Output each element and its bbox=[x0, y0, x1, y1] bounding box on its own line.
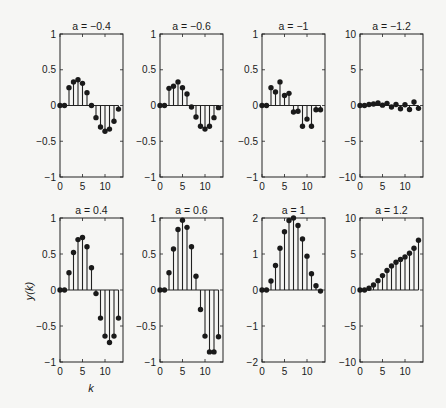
stem-marker bbox=[189, 244, 194, 249]
y-tick-label: −0.5 bbox=[136, 321, 156, 332]
stem-marker bbox=[116, 315, 121, 320]
x-tick-label: 0 bbox=[157, 181, 163, 192]
y-tick-label: −10 bbox=[339, 357, 356, 368]
x-tick-label: 10 bbox=[399, 366, 411, 377]
x-tick-label: 5 bbox=[282, 181, 288, 192]
y-tick-label: −1 bbox=[145, 172, 157, 183]
stem-marker bbox=[207, 124, 212, 129]
stem-marker bbox=[93, 291, 98, 296]
y-tick-label: 0 bbox=[252, 100, 258, 111]
stem-marker bbox=[62, 287, 67, 292]
x-tick-label: 5 bbox=[80, 181, 86, 192]
stem-marker bbox=[111, 333, 116, 338]
stem-marker bbox=[216, 105, 221, 110]
stem-marker bbox=[111, 119, 116, 124]
stem-marker bbox=[286, 91, 291, 96]
stem-panel: a = 1−2−10120510 bbox=[247, 204, 325, 377]
y-tick-label: 1 bbox=[50, 29, 56, 40]
stem-marker bbox=[189, 104, 194, 109]
stem-marker bbox=[273, 89, 278, 94]
stem-marker bbox=[300, 236, 305, 241]
stem-marker bbox=[202, 333, 207, 338]
stem-marker bbox=[180, 85, 185, 90]
stem-marker bbox=[162, 287, 167, 292]
stem-marker bbox=[66, 85, 71, 90]
stem-marker bbox=[384, 268, 389, 273]
stem-panel: a = 0.4−1−0.500.510510 bbox=[36, 204, 123, 377]
y-tick-label: −1 bbox=[247, 172, 259, 183]
y-tick-label: −1 bbox=[247, 321, 259, 332]
stem-marker bbox=[407, 251, 412, 256]
y-tick-label: 0 bbox=[50, 100, 56, 111]
stem-marker bbox=[389, 263, 394, 268]
stem-marker bbox=[80, 235, 85, 240]
y-tick-label: 2 bbox=[252, 213, 258, 224]
stem-marker bbox=[102, 333, 107, 338]
y-tick-label: −1 bbox=[45, 172, 57, 183]
x-tick-label: 5 bbox=[380, 181, 386, 192]
x-tick-label: 5 bbox=[380, 366, 386, 377]
x-tick-label: 10 bbox=[99, 181, 111, 192]
x-tick-label: 0 bbox=[57, 181, 63, 192]
stem-marker bbox=[211, 115, 216, 120]
x-tick-label: 5 bbox=[180, 366, 186, 377]
stem-marker bbox=[264, 287, 269, 292]
y-tick-label: 0 bbox=[350, 100, 356, 111]
y-tick-label: 0.5 bbox=[42, 249, 56, 260]
stem-marker bbox=[198, 124, 203, 129]
stem-marker bbox=[362, 103, 367, 108]
stem-marker bbox=[184, 91, 189, 96]
y-tick-label: −5 bbox=[345, 136, 357, 147]
stem-panel: a = −0.6−1−0.500.510510 bbox=[136, 20, 223, 192]
stem-marker bbox=[175, 79, 180, 84]
panel-title: a = 0.4 bbox=[75, 204, 108, 216]
stem-panel: a = −1.2−10−505100510 bbox=[339, 20, 423, 192]
x-tick-label: 0 bbox=[157, 366, 163, 377]
stem-marker bbox=[371, 101, 376, 106]
stem-marker bbox=[107, 126, 112, 131]
stem-marker bbox=[393, 260, 398, 265]
panel-title: a = 0.6 bbox=[175, 204, 208, 216]
x-tick-label: 5 bbox=[80, 366, 86, 377]
stem-marker bbox=[98, 124, 103, 129]
stem-marker bbox=[75, 77, 80, 82]
y-tick-label: 0 bbox=[50, 285, 56, 296]
stem-marker bbox=[402, 102, 407, 107]
stem-marker bbox=[162, 103, 167, 108]
stem-marker bbox=[304, 253, 309, 258]
panel-title: a = −0.4 bbox=[72, 20, 111, 32]
stem-marker bbox=[80, 81, 85, 86]
stem-marker bbox=[300, 124, 305, 129]
x-tick-label: 0 bbox=[259, 181, 265, 192]
panel-title: a = −1.2 bbox=[372, 20, 411, 32]
stem-marker bbox=[193, 274, 198, 279]
y-tick-label: 1 bbox=[150, 213, 156, 224]
stem-marker bbox=[318, 288, 323, 293]
y-tick-label: 0 bbox=[150, 285, 156, 296]
y-tick-label: 5 bbox=[350, 249, 356, 260]
stem-marker bbox=[407, 107, 412, 112]
stem-marker bbox=[398, 106, 403, 111]
y-tick-label: 0 bbox=[252, 285, 258, 296]
stem-marker bbox=[211, 349, 216, 354]
stem-marker bbox=[411, 99, 416, 104]
stem-marker bbox=[166, 270, 171, 275]
y-tick-label: 0.5 bbox=[42, 64, 56, 75]
stem-marker bbox=[291, 109, 296, 114]
stem-marker bbox=[268, 278, 273, 283]
x-tick-label: 0 bbox=[57, 366, 63, 377]
stem-marker bbox=[375, 278, 380, 283]
y-tick-label: 0 bbox=[150, 100, 156, 111]
stem-marker bbox=[202, 126, 207, 131]
y-tick-label: 0.5 bbox=[142, 64, 156, 75]
x-tick-label: 10 bbox=[301, 366, 313, 377]
panel-title: a = −0.6 bbox=[172, 20, 211, 32]
y-tick-label: −2 bbox=[247, 357, 259, 368]
stem-marker bbox=[171, 83, 176, 88]
stem-marker bbox=[268, 85, 273, 90]
stem-marker bbox=[291, 215, 296, 220]
stem-marker bbox=[295, 109, 300, 114]
y-tick-label: −1 bbox=[45, 357, 57, 368]
stem-marker bbox=[393, 102, 398, 107]
x-axis-label: k bbox=[88, 382, 94, 394]
